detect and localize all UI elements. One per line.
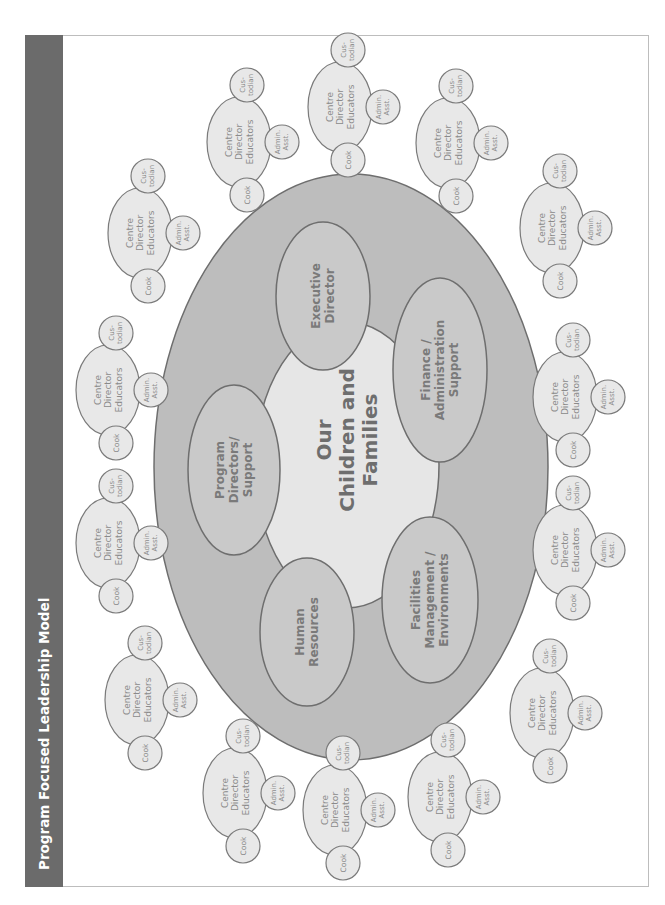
- cook-label: Cook: [569, 440, 578, 459]
- centre-label-line: Director: [335, 89, 345, 125]
- centre-label-line: Centre: [550, 381, 560, 412]
- admin-assistant-label-line: Admin.: [274, 130, 282, 155]
- admin-assistant-label-line: Admin.: [375, 95, 383, 120]
- department-label-line: Executive: [309, 263, 323, 329]
- centre-label-line: Centre: [220, 777, 230, 808]
- admin-assistant-label-line: Asst.: [278, 784, 286, 801]
- centre-label-line: Educators: [245, 119, 255, 164]
- centre-label-line: Educators: [143, 677, 153, 722]
- custodian-label-line: todian: [116, 322, 124, 344]
- cook-label-line: Cook: [569, 440, 578, 459]
- cook-label-line: Cook: [569, 593, 578, 612]
- page-title: Program Focused Leadership Model: [36, 598, 52, 870]
- centre-label-line: Director: [537, 695, 547, 731]
- custodian-label-line: Cus-: [108, 325, 116, 341]
- custodian-label-line: Cus-: [235, 728, 243, 744]
- centre-label-line: Centre: [537, 212, 547, 243]
- centre-label-line: Educators: [346, 84, 356, 129]
- custodian-label-line: Cus-: [565, 485, 573, 501]
- custodian-label-line: Cus-: [140, 168, 148, 184]
- centre-label-line: Centre: [325, 91, 335, 122]
- department-label-line: Director: [323, 268, 337, 323]
- department-program-directors-support: ProgramDirectors/Support: [188, 385, 280, 555]
- department-label-line: Human: [293, 608, 307, 656]
- centre-label-line: Director: [435, 779, 445, 815]
- cook-label-line: Cook: [556, 271, 565, 290]
- admin-assistant-label-line: Asst.: [483, 788, 491, 805]
- admin-assistant-label-line: Admin.: [587, 216, 595, 241]
- centre-cluster: CentreDirectorEducatorsCookCus-todianAdm…: [308, 33, 400, 177]
- centre-cluster: CentreDirectorEducatorsCookCus-todianAdm…: [416, 69, 508, 213]
- centre-label-line: Educators: [454, 120, 464, 165]
- admin-assistant-label-line: Asst.: [180, 691, 188, 708]
- custodian-label-line: Cus-: [108, 478, 116, 494]
- admin-assistant-label-line: Admin.: [600, 385, 608, 410]
- centre-cluster: CentreDirectorEducatorsCookCus-todianAdm…: [510, 639, 602, 783]
- centre-label-line: Educators: [114, 367, 124, 412]
- cook-label: Cook: [239, 836, 248, 855]
- custodian-label-line: Cus-: [340, 42, 348, 58]
- centre-label-line: Centre: [93, 527, 103, 558]
- cook-label: Cook: [546, 756, 555, 775]
- admin-assistant-label-line: Asst.: [151, 534, 159, 551]
- cook-label-line: Cook: [141, 743, 150, 762]
- admin-assistant-label-line: Asst.: [282, 133, 290, 150]
- custodian-label-line: todian: [560, 160, 568, 182]
- cook-label: Cook: [452, 186, 461, 205]
- department-label: ExecutiveDirector: [309, 263, 337, 329]
- cook-label-line: Cook: [144, 276, 153, 295]
- centre-cluster: CentreDirectorEducatorsCookCus-todianAdm…: [520, 154, 612, 298]
- custodian-label-line: todian: [448, 729, 456, 751]
- department-label: ProgramDirectors/Support: [213, 436, 255, 503]
- centre-label-line: Educators: [341, 787, 351, 832]
- cook-label-line: Cook: [339, 853, 348, 872]
- department-label-line: Environments: [437, 553, 451, 646]
- centre-label-line: Director: [560, 532, 570, 568]
- cook-label-line: Cook: [243, 185, 252, 204]
- centre-label-line: Educators: [241, 770, 251, 815]
- department-executive-director: ExecutiveDirector: [276, 222, 370, 370]
- admin-assistant-label-line: Asst.: [378, 801, 386, 818]
- department-label-line: Program: [213, 441, 227, 499]
- centre-label-line: Director: [230, 775, 240, 811]
- custodian-label-line: Cus-: [335, 745, 343, 761]
- custodian-label-line: todian: [348, 39, 356, 61]
- cook-label-line: Cook: [112, 586, 121, 605]
- centre-cluster: CentreDirectorEducatorsCookCus-todianAdm…: [303, 736, 395, 880]
- centre-label-line: Director: [132, 682, 142, 718]
- centre-label-line: Centre: [527, 697, 537, 728]
- custodian-label-line: Cus-: [565, 332, 573, 348]
- centre-cluster: CentreDirectorEducatorsCookCus-todianAdm…: [105, 626, 197, 770]
- centre-label-line: Director: [443, 125, 453, 161]
- custodian-label-line: todian: [573, 482, 581, 504]
- centre-label-line: Director: [560, 379, 570, 415]
- centre-label-line: Director: [330, 792, 340, 828]
- admin-assistant-label-line: Asst.: [595, 219, 603, 236]
- centre-label-line: Educators: [548, 690, 558, 735]
- department-facilities-management-environments: FacilitiesManagement /Environments: [382, 517, 478, 683]
- cook-label: Cook: [112, 433, 121, 452]
- centre-label-line: Director: [547, 210, 557, 246]
- department-finance-administration-support: Finance /AdministrationSupport: [393, 278, 487, 462]
- centre-label-line: Director: [135, 215, 145, 251]
- cook-label-line: Cook: [344, 150, 353, 169]
- centre-label-line: Centre: [433, 127, 443, 158]
- cook-label: Cook: [444, 840, 453, 859]
- center-label-text-line: Children and: [335, 368, 359, 512]
- custodian-label-line: todian: [343, 742, 351, 764]
- centre-label-line: Educators: [446, 774, 456, 819]
- department-human-resources: HumanResources: [260, 558, 354, 706]
- cook-label: Cook: [144, 276, 153, 295]
- cook-label: Cook: [243, 185, 252, 204]
- cook-label-line: Cook: [239, 836, 248, 855]
- custodian-label-line: todian: [456, 75, 464, 97]
- cook-label: Cook: [339, 853, 348, 872]
- custodian-label-line: todian: [145, 632, 153, 654]
- centre-label-line: Centre: [550, 534, 560, 565]
- cook-label-line: Cook: [546, 756, 555, 775]
- custodian-label-line: todian: [247, 74, 255, 96]
- centre-label-line: Director: [234, 124, 244, 160]
- department-label-line: Finance /: [419, 339, 433, 401]
- centre-label-line: Centre: [425, 781, 435, 812]
- admin-assistant-label-line: Asst.: [491, 134, 499, 151]
